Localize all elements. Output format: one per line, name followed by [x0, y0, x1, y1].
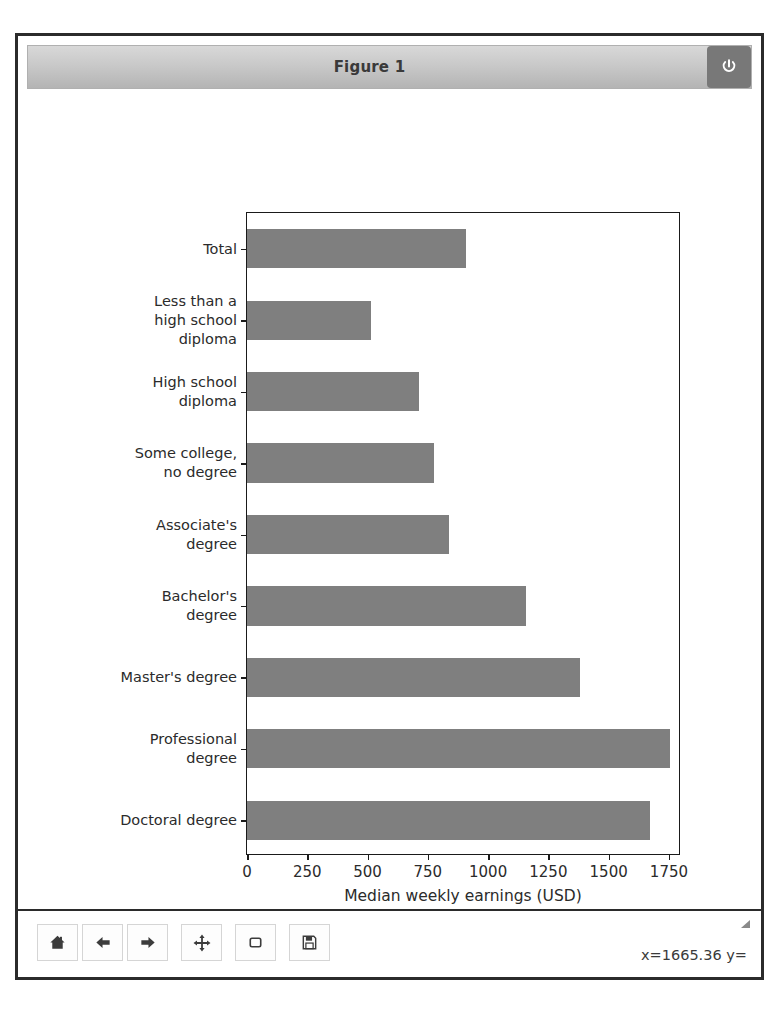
x-tick-label: 1250 [529, 863, 567, 881]
x-tick-mark [488, 854, 490, 860]
zoom-button[interactable] [235, 924, 276, 961]
x-tick-mark [247, 854, 249, 860]
navigation-toolbar: x=1665.36 y= [18, 909, 761, 977]
toolbar-separator [280, 924, 289, 961]
power-icon [719, 57, 739, 77]
power-close-button[interactable] [707, 46, 751, 88]
x-tick-mark [669, 854, 671, 860]
arrow-left-icon [93, 933, 113, 952]
y-tick-label: Less than a high school diploma [154, 292, 237, 349]
y-tick-mark [241, 535, 247, 537]
bar [247, 301, 371, 340]
forward-button[interactable] [127, 924, 168, 961]
y-tick-mark [241, 249, 247, 251]
bar [247, 729, 670, 768]
coordinate-readout: x=1665.36 y= [641, 947, 747, 963]
x-tick-mark [307, 854, 309, 860]
x-tick-label: 1500 [590, 863, 628, 881]
bar [247, 443, 434, 482]
y-tick-label: Associate's degree [156, 516, 237, 554]
y-tick-mark [241, 677, 247, 679]
y-tick-mark [241, 463, 247, 465]
save-button[interactable] [289, 924, 330, 961]
bar [247, 586, 526, 625]
x-tick-label: 750 [414, 863, 443, 881]
bar [247, 229, 466, 268]
bar [247, 658, 580, 697]
x-tick-label: 500 [353, 863, 382, 881]
rectangle-icon [246, 933, 265, 952]
floppy-disk-icon [300, 933, 319, 952]
bar [247, 801, 650, 840]
y-tick-label: High school diploma [153, 373, 237, 411]
x-tick-label: 0 [242, 863, 252, 881]
toolbar-separator [172, 924, 181, 961]
toolbar-separator [226, 924, 235, 961]
x-tick-mark [609, 854, 611, 860]
pan-button[interactable] [181, 924, 222, 961]
home-button[interactable] [37, 924, 78, 961]
bars-layer [247, 213, 679, 854]
x-axis-label: Median weekly earnings (USD) [344, 887, 582, 905]
back-button[interactable] [82, 924, 123, 961]
y-tick-label: Doctoral degree [120, 811, 237, 830]
y-tick-label: Master's degree [121, 668, 237, 687]
title-bar[interactable]: Figure 1 [27, 45, 752, 89]
home-icon [48, 933, 67, 952]
bar [247, 515, 449, 554]
toolbar-buttons [37, 924, 334, 961]
bar [247, 372, 419, 411]
y-tick-label: Professional degree [150, 730, 237, 768]
x-tick-mark [428, 854, 430, 860]
x-tick-label: 1750 [650, 863, 688, 881]
figure-window: Figure 1 TotalLess than a high school di… [15, 33, 764, 980]
x-tick-mark [368, 854, 370, 860]
y-tick-label: Total [203, 239, 237, 258]
x-tick-label: 250 [293, 863, 322, 881]
y-tick-label: Some college, no degree [135, 444, 237, 482]
x-tick-mark [548, 854, 550, 860]
plot-axes: TotalLess than a high school diplomaHigh… [246, 212, 680, 855]
y-tick-mark [241, 749, 247, 751]
figure-canvas[interactable]: TotalLess than a high school diplomaHigh… [27, 89, 752, 909]
window-title: Figure 1 [28, 46, 751, 88]
x-tick-label: 1000 [469, 863, 507, 881]
arrow-right-icon [138, 933, 158, 952]
move-icon [192, 933, 212, 953]
y-tick-mark [241, 820, 247, 822]
resize-grip[interactable] [738, 915, 751, 926]
y-tick-mark [241, 320, 247, 322]
y-tick-label: Bachelor's degree [162, 587, 237, 625]
y-tick-mark [241, 392, 247, 394]
y-tick-mark [241, 606, 247, 608]
